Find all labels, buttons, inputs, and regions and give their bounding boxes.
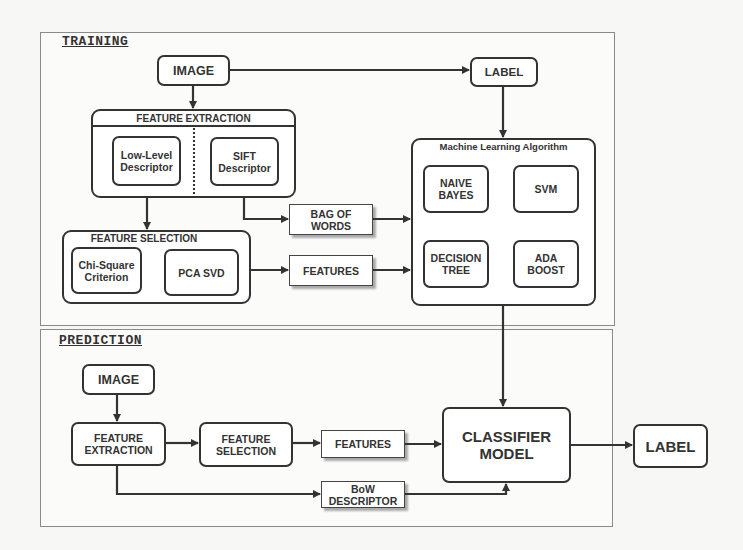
bag-of-words-node: BAG OF WORDS (289, 204, 373, 235)
low-level-descriptor-node: Low-Level Descriptor (112, 136, 181, 186)
prediction-feature-selection-node: FEATURE SELECTION (199, 422, 293, 467)
feature-extraction-dotted-divider (193, 128, 195, 198)
svm-node: SVM (513, 165, 579, 213)
ml-algorithm-title: Machine Learning Algorithm (413, 141, 594, 152)
output-label-node: LABEL (633, 424, 708, 468)
prediction-image-node: IMAGE (82, 364, 155, 395)
feature-extraction-divider (93, 125, 294, 127)
chi-square-node: Chi-Square Criterion (71, 247, 142, 294)
sift-descriptor-node: SIFT Descriptor (210, 137, 279, 186)
training-image-node: IMAGE (157, 55, 230, 86)
decision-tree-node: DECISION TREE (423, 240, 489, 288)
naive-bayes-node: NAIVE BAYES (423, 165, 489, 213)
pca-svd-node: PCA SVD (164, 249, 239, 296)
prediction-title: PREDICTION (59, 333, 142, 348)
prediction-feature-extraction-node: FEATURE EXTRACTION (71, 422, 166, 466)
training-title: TRAINING (62, 34, 128, 49)
feature-selection-title: FEATURE SELECTION (64, 233, 224, 244)
prediction-features-node: FEATURES (321, 430, 405, 458)
classifier-model-node: CLASSIFIER MODEL (442, 407, 571, 483)
training-label-node: LABEL (470, 57, 538, 87)
bow-descriptor-node: BoW DESCRIPTOR (321, 481, 405, 508)
training-features-node: FEATURES (289, 255, 373, 286)
feature-extraction-title: FEATURE EXTRACTION (93, 113, 294, 124)
ada-boost-node: ADA BOOST (513, 240, 579, 288)
